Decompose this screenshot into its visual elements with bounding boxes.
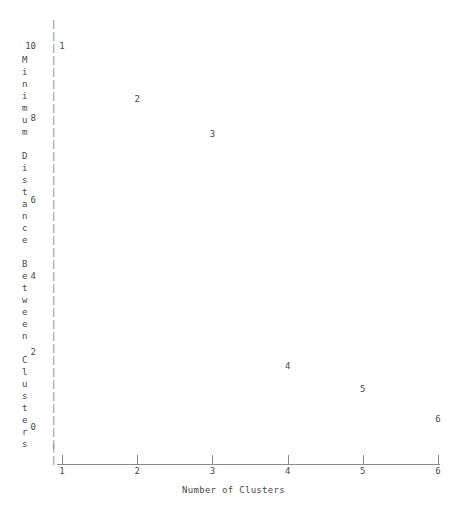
x-tick-mark (137, 455, 138, 464)
x-tick-label-2: 2 (131, 465, 143, 477)
x-tick-label-1: 1 (56, 465, 68, 477)
x-tick-label-3: 3 (206, 465, 218, 477)
x-axis-title: Number of Clusters (0, 485, 467, 495)
data-point: 1 (57, 40, 67, 52)
x-tick-mark (288, 455, 289, 464)
x-tick-label-4: 4 (282, 465, 294, 477)
x-tick-mark (438, 455, 439, 464)
data-point: 5 (358, 383, 368, 395)
y-axis-segment: | (51, 442, 59, 454)
data-point: 3 (207, 128, 217, 140)
x-tick-label-5: 5 (357, 465, 369, 477)
data-point: 4 (283, 360, 293, 372)
x-tick-label-6: 6 (432, 465, 444, 477)
x-tick-mark (363, 455, 364, 464)
plot-area: 123456 (0, 0, 467, 448)
x-tick-mark (62, 455, 63, 464)
x-tick-mark (212, 455, 213, 464)
data-point: 2 (132, 93, 142, 105)
data-point: 6 (433, 413, 443, 425)
axis-origin-corner: || (51, 442, 59, 466)
ascii-scatter-plot: Minimum Distance Between Clusters 10 8 6… (0, 0, 467, 523)
x-axis-line (57, 464, 440, 465)
